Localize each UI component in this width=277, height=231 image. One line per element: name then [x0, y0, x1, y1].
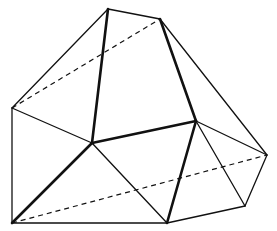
edge-DE [92, 121, 196, 143]
edge-HI [167, 206, 245, 223]
edge-AC [12, 9, 108, 108]
edge-EF [196, 121, 267, 155]
edge-GF-hidden [12, 155, 267, 223]
edge-IF [245, 155, 267, 206]
edge-CD [12, 108, 92, 143]
edge-AD [92, 9, 108, 143]
edge-AB [108, 9, 160, 19]
polyhedron-diagram [0, 0, 277, 231]
edge-BF [160, 19, 267, 155]
edges-group [12, 9, 267, 223]
edge-DG [12, 143, 92, 223]
edge-EI [196, 121, 245, 206]
edge-BE [160, 19, 196, 121]
edge-EH [167, 121, 196, 223]
edge-DH [92, 143, 167, 223]
